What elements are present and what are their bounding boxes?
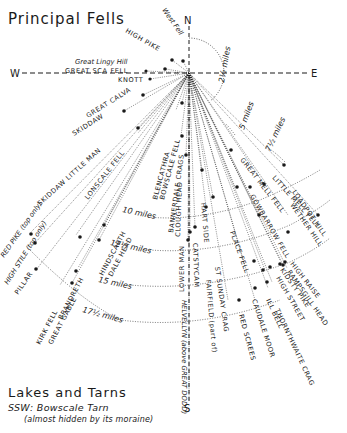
fell-label: CLOUGH HEAD [174, 181, 184, 237]
fell-label: GREAT CALVA [85, 86, 133, 120]
lake-note: (almost hidden by its moraine) [24, 415, 153, 424]
fell-label: GREAT SCA FELL [65, 67, 128, 75]
lake-name: Bowscale Tarn [37, 402, 109, 413]
lake-entry: SSW: Bowscale Tarn [8, 402, 109, 413]
fell-label: West Fell [160, 7, 184, 37]
fell-label: SKIDDAW LITTLE MAN [36, 146, 103, 207]
fell-label: RED SCREES [237, 313, 257, 361]
compass-north: N [184, 15, 191, 26]
fell-label: HELVELLYN (above GREAT DODD) [180, 300, 188, 414]
distance-label: 2½ miles [217, 46, 232, 84]
fell-label: Great Lingy Hill [75, 58, 128, 66]
fell-label: FAIRFIELD (part of) [204, 279, 218, 353]
fell-label: KNOTT [118, 76, 144, 84]
distance-label: 17½ miles [81, 305, 124, 325]
fell-label: CATSTYCAM [191, 243, 201, 288]
distance-label: 10 miles [122, 205, 157, 221]
distance-label: 7½ miles [264, 116, 288, 153]
distance-label: 5 miles [237, 100, 255, 130]
compass-west: W [10, 68, 20, 79]
fell-diagram: N S E W 2½ miles 5 miles 7½ miles 10 mil… [0, 0, 347, 433]
fell-label: PLACE FELL [228, 230, 251, 274]
fell-label: HIGH PIKE [124, 27, 162, 53]
fell-label: LOWER MAN [178, 245, 186, 292]
fell-label: GOWBARROW FELL [248, 193, 291, 260]
lake-direction: SSW: [8, 402, 34, 413]
lakes-title: Lakes and Tarns [8, 385, 127, 400]
fell-label: THORNTHWAITE CRAG [273, 307, 316, 388]
distance-label: 15 miles [98, 275, 133, 291]
fell-label: HART SIDE [199, 202, 210, 243]
compass-east: E [311, 68, 317, 79]
